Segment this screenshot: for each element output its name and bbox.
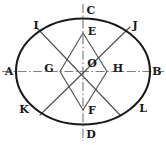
point-label-E: E: [88, 26, 96, 37]
point-label-I: I: [33, 20, 38, 31]
geometry-canvas: [0, 0, 166, 145]
point-label-F: F: [88, 105, 96, 116]
point-label-D: D: [86, 129, 96, 140]
point-label-H: H: [113, 63, 123, 74]
point-label-G: G: [44, 63, 53, 74]
point-label-J: J: [132, 20, 137, 31]
point-label-B: B: [152, 66, 161, 77]
point-label-L: L: [139, 103, 147, 114]
point-label-C: C: [87, 5, 96, 16]
point-label-A: A: [5, 66, 14, 77]
geometry-figure: A B C D E F G H I J K L O: [0, 0, 166, 145]
point-label-O: O: [87, 58, 97, 69]
point-label-K: K: [19, 104, 29, 115]
